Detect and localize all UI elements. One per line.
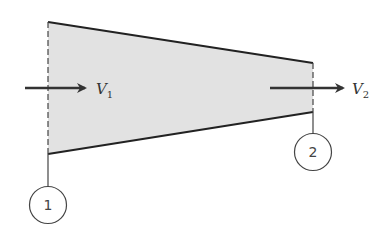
outlet-velocity-label: V2 — [352, 80, 369, 100]
nozzle-diagram: 1 2 V1 V2 — [0, 0, 385, 234]
section-2-label: 2 — [309, 144, 318, 160]
section-1-label: 1 — [44, 197, 53, 213]
